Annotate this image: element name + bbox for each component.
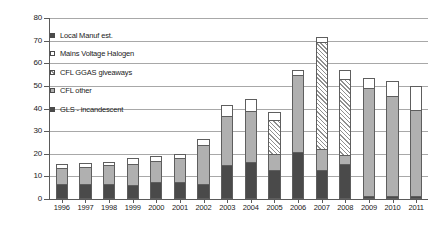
legend-item[interactable]: CFL GGAS giveaways xyxy=(50,63,190,82)
bar-group[interactable] xyxy=(268,18,280,199)
bar-segment xyxy=(56,184,68,199)
bar-group[interactable] xyxy=(316,18,328,199)
y-axis-tick-label: 40 xyxy=(20,105,42,113)
legend-item[interactable]: GLS - incandescent xyxy=(50,100,190,119)
bar-segment xyxy=(127,185,139,199)
bar-segment xyxy=(410,110,422,196)
y-axis-tick-label: 30 xyxy=(20,127,42,135)
bar-segment xyxy=(339,79,351,155)
x-axis-tick-label: 2011 xyxy=(404,203,428,212)
legend-item[interactable]: Local Manuf est. xyxy=(50,26,190,45)
bar-segment xyxy=(268,154,280,170)
bar-group[interactable] xyxy=(245,18,257,199)
legend-swatch-icon xyxy=(50,70,55,75)
x-axis-labels: 1996199719981999200020012002200320042005… xyxy=(50,203,428,217)
x-axis-tick-label: 1997 xyxy=(74,203,98,212)
bar-segment xyxy=(221,105,233,116)
bar-segment xyxy=(150,156,162,161)
bar-segment xyxy=(245,111,257,162)
bar-segment xyxy=(79,163,91,168)
y-axis-tick-label: 50 xyxy=(20,82,42,90)
bar-segment xyxy=(174,154,186,159)
bar-segment xyxy=(268,120,280,154)
bar-segment xyxy=(79,184,91,199)
bar-segment xyxy=(268,112,280,120)
bar-segment xyxy=(79,167,91,184)
bar-segment xyxy=(339,155,351,164)
x-axis-tick-label: 1996 xyxy=(50,203,74,212)
x-axis-tick-label: 2008 xyxy=(334,203,358,212)
bar-segment xyxy=(221,165,233,199)
bar-segment xyxy=(103,165,115,184)
y-axis-tick-label: 0 xyxy=(20,195,42,203)
x-axis-tick-label: 2009 xyxy=(357,203,381,212)
legend-swatch-icon xyxy=(50,88,55,93)
bar-segment xyxy=(127,164,139,185)
x-axis-line xyxy=(49,199,428,200)
bar-segment xyxy=(197,139,209,145)
bar-segment xyxy=(292,75,304,152)
legend-item-label: Local Manuf est. xyxy=(60,31,113,40)
bar-segment xyxy=(221,116,233,165)
bar-segment xyxy=(268,170,280,199)
bar-group[interactable] xyxy=(339,18,351,199)
bar-group[interactable] xyxy=(292,18,304,199)
bar-segment xyxy=(316,170,328,199)
bar-segment xyxy=(197,184,209,199)
bar-segment xyxy=(150,161,162,182)
y-axis-tick-label: 60 xyxy=(20,59,42,67)
x-axis-tick-label: 2000 xyxy=(145,203,169,212)
chart-legend: Local Manuf est.Mains Voltage HalogenCFL… xyxy=(50,26,190,119)
x-axis-tick-label: 2002 xyxy=(192,203,216,212)
y-axis-tick-label: 70 xyxy=(20,37,42,45)
bar-segment xyxy=(56,164,68,169)
legend-item[interactable]: CFL other xyxy=(50,82,190,101)
bar-segment xyxy=(56,168,68,184)
legend-item-label: GLS - incandescent xyxy=(60,105,123,114)
bar-segment xyxy=(339,164,351,199)
bar-segment xyxy=(127,158,139,164)
bar-segment xyxy=(316,149,328,169)
legend-swatch-icon xyxy=(50,33,55,38)
x-axis-tick-label: 2006 xyxy=(286,203,310,212)
bar-segment xyxy=(386,96,398,196)
bar-group[interactable] xyxy=(386,18,398,199)
legend-swatch-icon xyxy=(50,107,55,112)
bar-segment xyxy=(316,42,328,149)
bar-group[interactable] xyxy=(410,18,422,199)
bar-segment xyxy=(174,182,186,199)
legend-item-label: Mains Voltage Halogen xyxy=(60,49,134,58)
bar-segment xyxy=(339,70,351,79)
bar-group[interactable] xyxy=(363,18,375,199)
bar-segment xyxy=(103,184,115,199)
x-axis-tick-label: 2003 xyxy=(215,203,239,212)
x-axis-tick-label: 2007 xyxy=(310,203,334,212)
legend-swatch-icon xyxy=(50,51,55,56)
x-axis-tick-label: 2010 xyxy=(381,203,405,212)
x-axis-tick-label: 1998 xyxy=(97,203,121,212)
bar-segment xyxy=(150,182,162,199)
bar-segment xyxy=(386,81,398,96)
legend-item-label: CFL GGAS giveaways xyxy=(60,68,132,77)
y-axis-labels: 80706050403020100 xyxy=(18,0,42,233)
bar-group[interactable] xyxy=(221,18,233,199)
y-axis-tick-label: 20 xyxy=(20,150,42,158)
bar-segment xyxy=(363,78,375,88)
bar-segment xyxy=(292,152,304,200)
bar-segment xyxy=(197,145,209,185)
legend-item[interactable]: Mains Voltage Halogen xyxy=(50,45,190,64)
bar-segment xyxy=(292,70,304,75)
bar-segment xyxy=(410,86,422,110)
bar-segment xyxy=(174,158,186,182)
legend-item-label: CFL other xyxy=(60,86,92,95)
x-axis-tick-label: 2004 xyxy=(239,203,263,212)
y-axis-tick-label: 80 xyxy=(20,14,42,22)
bar-group[interactable] xyxy=(197,18,209,199)
bar-segment xyxy=(245,162,257,199)
x-axis-tick-label: 1999 xyxy=(121,203,145,212)
bar-segment xyxy=(363,88,375,195)
y-axis-tick-label: 10 xyxy=(20,172,42,180)
x-axis-tick-label: 2005 xyxy=(263,203,287,212)
bar-segment xyxy=(103,162,115,165)
stacked-bar-chart: 80706050403020100 1996199719981999200020… xyxy=(0,0,433,233)
